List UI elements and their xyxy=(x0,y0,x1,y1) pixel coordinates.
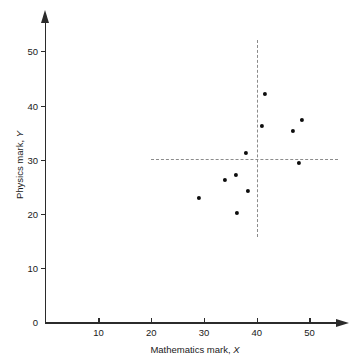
x-axis-line xyxy=(45,322,341,323)
x-axis-title: Mathematics mark, X xyxy=(150,344,239,355)
y-axis-line xyxy=(45,22,46,323)
x-axis-tick-label: 10 xyxy=(93,327,104,338)
horizontal-reference-line xyxy=(151,159,338,160)
data-point xyxy=(244,151,248,155)
y-axis-tick-label: 50 xyxy=(20,46,38,57)
y-axis-tick xyxy=(41,106,46,107)
data-point xyxy=(297,161,301,165)
y-axis-arrow-icon xyxy=(41,10,49,23)
data-point xyxy=(290,129,294,133)
data-point xyxy=(260,123,264,127)
x-axis-arrow-icon xyxy=(336,319,349,327)
scatter-plot: 102030405001020304050 Mathematics mark, … xyxy=(0,0,351,363)
data-point xyxy=(299,118,303,122)
data-point xyxy=(234,173,238,177)
x-axis-tick xyxy=(98,318,99,323)
data-point xyxy=(246,189,250,193)
y-axis-title: Physics mark, Y xyxy=(14,110,25,220)
y-axis-tick xyxy=(41,268,46,269)
data-point xyxy=(263,91,267,95)
data-point xyxy=(222,178,226,182)
x-axis-tick-label: 30 xyxy=(199,327,210,338)
x-axis-title-text: Mathematics mark, xyxy=(150,344,230,355)
x-axis-tick-label: 20 xyxy=(146,327,157,338)
y-axis-tick-label: 0 xyxy=(20,317,38,328)
x-axis-tick-label: 40 xyxy=(251,327,262,338)
data-point xyxy=(197,196,201,200)
y-axis-tick xyxy=(41,160,46,161)
y-axis-title-text: Physics mark, xyxy=(14,140,25,199)
vertical-reference-line xyxy=(257,40,258,237)
x-axis-tick xyxy=(257,318,258,323)
y-axis-title-symbol: Y xyxy=(14,131,25,137)
x-axis-title-symbol: X xyxy=(233,344,239,355)
x-axis-tick-label: 50 xyxy=(304,327,315,338)
data-point xyxy=(235,211,239,215)
y-axis-tick xyxy=(41,51,46,52)
x-axis-tick xyxy=(309,318,310,323)
x-axis-tick xyxy=(204,318,205,323)
y-axis-tick-label: 10 xyxy=(20,263,38,274)
y-axis-tick xyxy=(41,214,46,215)
x-axis-tick xyxy=(151,318,152,323)
